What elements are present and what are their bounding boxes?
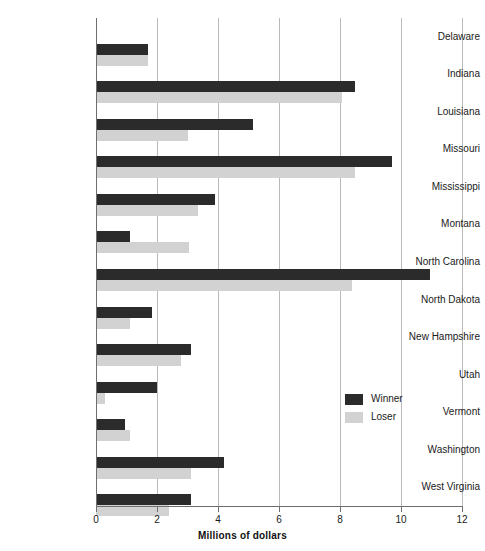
category-label: Louisiana (395, 106, 485, 118)
category-label: Indiana (395, 68, 485, 80)
category-label: West Virginia (395, 481, 485, 493)
x-tick-mark (218, 507, 219, 512)
bar-winner (96, 119, 253, 130)
x-tick-mark (157, 507, 158, 512)
bar-winner (96, 419, 125, 430)
bar-loser (96, 167, 355, 178)
bar-winner (96, 44, 148, 55)
x-tick-label: 12 (456, 514, 467, 526)
bar-loser (96, 92, 342, 103)
category-label: North Carolina (395, 256, 485, 268)
category-label: Montana (395, 218, 485, 230)
bar-loser (96, 393, 105, 404)
bar-winner (96, 344, 191, 355)
legend: WinnerLoser (345, 390, 437, 426)
bar-loser (96, 130, 188, 141)
bar-loser (96, 430, 130, 441)
bar-loser (96, 318, 130, 329)
bar-winner (96, 307, 152, 318)
category-label: New Hampshire (395, 331, 485, 343)
bar-loser (96, 355, 181, 366)
bar-loser (96, 55, 148, 66)
bar-loser (96, 280, 352, 291)
x-tick-mark (279, 507, 280, 512)
category-label: Delaware (395, 31, 485, 43)
x-tick-mark (340, 507, 341, 512)
legend-swatch-icon (345, 394, 363, 405)
bar-winner (96, 382, 157, 393)
legend-item-winner[interactable]: Winner (345, 390, 437, 408)
bar-winner (96, 494, 191, 505)
category-label: North Dakota (395, 294, 485, 306)
x-tick-label: 8 (337, 514, 343, 526)
category-label: Utah (395, 369, 485, 381)
category-label: Missouri (395, 143, 485, 155)
bar-chart: 024681012DelawareIndianaLouisianaMissour… (0, 0, 485, 551)
bar-winner (96, 81, 355, 92)
bar-winner (96, 156, 392, 167)
x-tick-label: 2 (154, 514, 160, 526)
y-axis-line (96, 18, 97, 507)
legend-label: Loser (371, 411, 396, 423)
legend-item-loser[interactable]: Loser (345, 408, 437, 426)
bar-winner (96, 231, 130, 242)
legend-label: Winner (371, 393, 403, 405)
bar-winner (96, 269, 430, 280)
bar-loser (96, 468, 191, 479)
category-label: Mississippi (395, 181, 485, 193)
x-tick-mark (401, 507, 402, 512)
x-tick-label: 4 (215, 514, 221, 526)
bar-winner (96, 457, 224, 468)
bar-loser (96, 205, 198, 216)
legend-swatch-icon (345, 412, 363, 423)
category-label: Washington (395, 444, 485, 456)
bar-loser (96, 242, 189, 253)
x-tick-mark (462, 507, 463, 512)
x-tick-label: 10 (395, 514, 406, 526)
x-tick-mark (96, 507, 97, 512)
x-tick-label: 0 (93, 514, 99, 526)
x-axis-title: Millions of dollars (0, 530, 485, 541)
bar-winner (96, 194, 215, 205)
x-tick-label: 6 (276, 514, 282, 526)
